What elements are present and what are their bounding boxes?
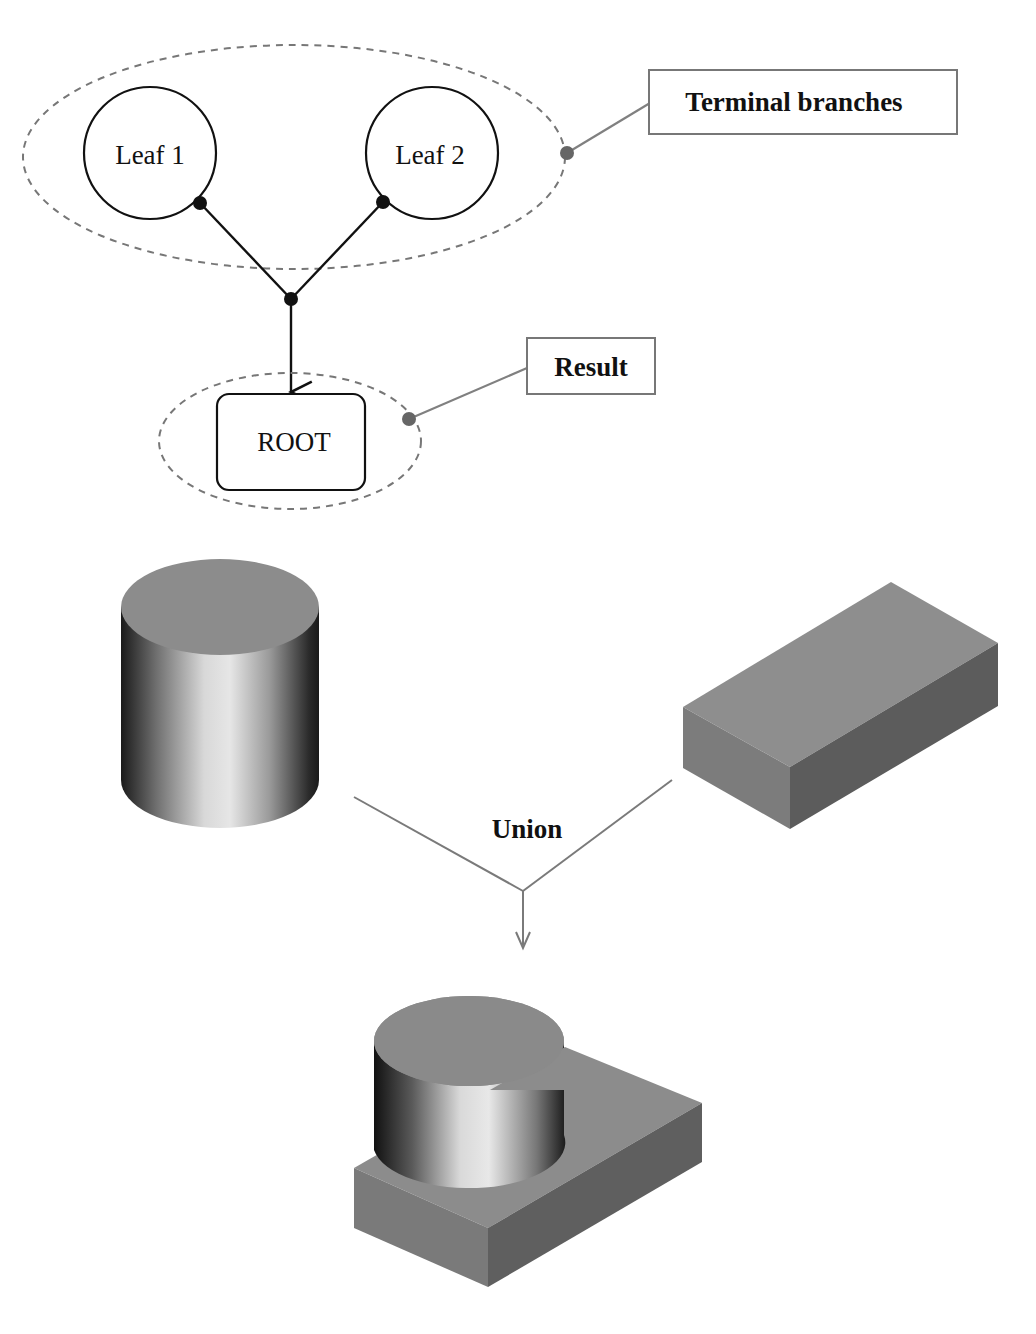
cylinder-solid: [121, 559, 319, 828]
csg-tree: Leaf 1 Leaf 2 ROOT Terminal branches: [23, 45, 957, 509]
terminal-branches-callout: Terminal branches: [560, 70, 957, 160]
diagram-canvas: Leaf 1 Leaf 2 ROOT Terminal branches: [0, 0, 1036, 1334]
leaf-2-port-dot: [376, 195, 390, 209]
edge-leaf2-junction: [291, 202, 383, 299]
union-label: Union: [492, 814, 563, 844]
edge-leaf1-junction: [200, 203, 291, 299]
root-node[interactable]: ROOT: [217, 394, 365, 490]
result-label: Result: [554, 352, 628, 382]
result-callout: Result: [402, 338, 655, 426]
union-result-solid: [354, 996, 702, 1287]
leaf-1-label: Leaf 1: [115, 140, 185, 170]
terminal-branches-label: Terminal branches: [685, 87, 902, 117]
leaf-2-label: Leaf 2: [395, 140, 465, 170]
box-solid: [683, 582, 998, 829]
union-connector: [354, 780, 672, 948]
root-label: ROOT: [257, 427, 331, 457]
leaf-1-port-dot: [193, 196, 207, 210]
